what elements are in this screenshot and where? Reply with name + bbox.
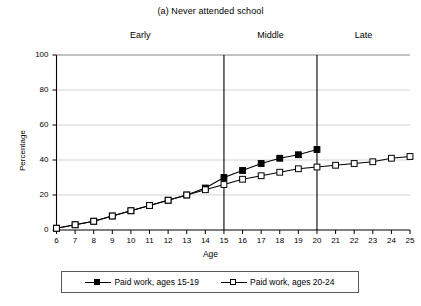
data-point-1-19	[295, 166, 301, 172]
data-point-1-6	[54, 225, 60, 231]
data-point-1-9	[109, 213, 115, 219]
chart-figure: (a) Never attended school Early Middle L…	[0, 0, 421, 306]
data-point-1-16	[240, 176, 246, 182]
data-point-1-14	[202, 187, 208, 193]
data-point-0-17	[258, 161, 264, 167]
filled-square-marker-icon	[85, 278, 111, 287]
data-point-1-24	[388, 155, 394, 161]
data-point-0-15	[221, 175, 227, 181]
data-point-0-19	[295, 152, 301, 158]
data-point-1-21	[333, 162, 339, 168]
data-point-1-15	[221, 182, 227, 188]
data-point-1-18	[277, 169, 283, 175]
data-point-1-12	[165, 197, 171, 203]
legend-item-paid-work-15-19: Paid work, ages 15-19	[85, 277, 199, 287]
legend-item-paid-work-20-24: Paid work, ages 20-24	[221, 277, 335, 287]
data-point-1-10	[128, 208, 134, 214]
data-point-1-7	[72, 222, 78, 228]
data-point-1-20	[314, 164, 320, 170]
data-point-1-13	[184, 192, 190, 198]
legend-label-0: Paid work, ages 15-19	[114, 277, 199, 287]
data-point-0-20	[314, 147, 320, 153]
legend-label-1: Paid work, ages 20-24	[250, 277, 335, 287]
data-point-0-16	[240, 168, 246, 174]
data-point-1-8	[91, 218, 97, 224]
chart-legend: Paid work, ages 15-19 Paid work, ages 20…	[61, 271, 359, 293]
data-point-1-25	[407, 154, 413, 160]
open-square-marker-icon	[221, 278, 247, 287]
plot-area	[0, 0, 421, 306]
data-point-1-23	[370, 159, 376, 165]
data-point-1-22	[351, 161, 357, 167]
data-point-0-18	[277, 155, 283, 161]
data-point-1-17	[258, 173, 264, 179]
data-point-1-11	[147, 203, 153, 209]
